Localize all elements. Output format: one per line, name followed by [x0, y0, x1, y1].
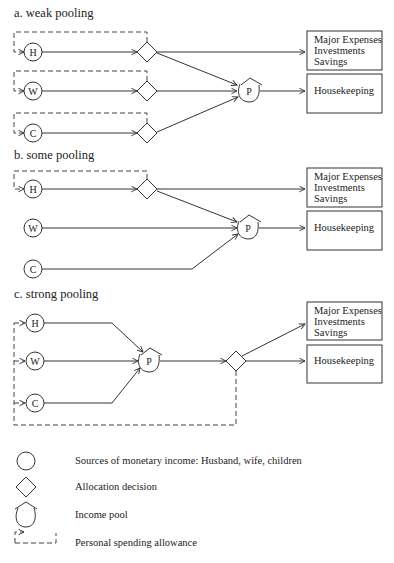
output-label: Major Expenses [314, 305, 382, 316]
output-label: Investments [314, 316, 365, 327]
output-label: Housekeeping [314, 222, 375, 233]
allocation-diamond-icon [137, 123, 157, 143]
section-weak-pooling: a. weak pooling H W C P Major Expenses I… [14, 6, 382, 143]
legend-label-allocation: Allocation decision [75, 481, 158, 492]
output-label: Housekeeping [314, 355, 375, 366]
output-label: Savings [314, 193, 347, 204]
legend-label-allowance: Personal spending allowance [75, 537, 197, 548]
source-label-husband: H [29, 47, 36, 58]
output-label: Major Expenses [314, 171, 382, 182]
source-label-husband: H [29, 184, 36, 195]
source-label-children: C [30, 264, 37, 275]
legend-dashed-bracket-icon [15, 532, 24, 543]
source-label-wife: W [30, 356, 40, 367]
output-label: Major Expenses [314, 34, 382, 45]
allocation-diamond-icon [137, 179, 157, 199]
allocation-diamond-icon [137, 42, 157, 62]
legend-circle-icon [17, 452, 35, 470]
section-title: a. weak pooling [14, 6, 94, 20]
output-label: Savings [314, 327, 347, 338]
section-some-pooling: b. some pooling H W C P Major Expenses I… [14, 148, 382, 278]
output-label: Investments [314, 182, 365, 193]
section-title: b. some pooling [14, 148, 95, 162]
pool-label: P [146, 356, 152, 367]
legend-label-sources: Sources of monetary income: Husband, wif… [75, 455, 303, 466]
source-label-wife: W [28, 86, 38, 97]
pool-label: P [245, 223, 251, 234]
section-strong-pooling: c. strong pooling H W C P Major Expenses… [14, 287, 382, 425]
legend-income-pool-icon [15, 502, 37, 527]
personal-allowance-dashed-line [14, 323, 236, 425]
source-label-wife: W [28, 223, 38, 234]
allocation-diamond-icon [226, 351, 246, 371]
output-label: Investments [314, 45, 365, 56]
legend-diamond-icon [16, 477, 36, 497]
source-label-husband: H [31, 318, 38, 329]
source-label-children: C [32, 398, 39, 409]
pool-label: P [246, 86, 252, 97]
allocation-diamond-icon [137, 81, 157, 101]
output-label: Housekeeping [314, 85, 375, 96]
income-pooling-diagram: a. weak pooling H W C P Major Expenses I… [0, 0, 394, 563]
section-title: c. strong pooling [14, 287, 99, 301]
legend-label-income-pool: Income pool [75, 509, 128, 520]
output-label: Savings [314, 56, 347, 67]
legend-dashed-bracket-icon [15, 533, 56, 543]
source-label-children: C [30, 128, 37, 139]
legend: Sources of monetary income: Husband, wif… [15, 452, 303, 548]
